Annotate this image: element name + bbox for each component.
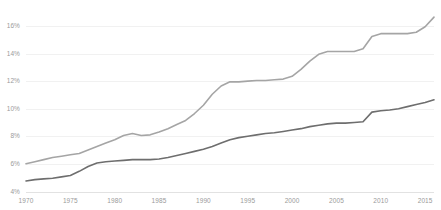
x-axis-tick-label: 2015 — [412, 197, 438, 204]
x-axis-tick-label: 1970 — [13, 197, 39, 204]
y-axis-tick-label: 10% — [0, 105, 20, 112]
x-axis-tick-label: 1985 — [146, 197, 172, 204]
series-lines — [26, 17, 434, 181]
y-axis-tick-label: 4% — [0, 188, 20, 195]
series-line-lower-series — [26, 100, 434, 181]
x-axis-tick-label: 2010 — [368, 197, 394, 204]
series-line-upper-series — [26, 17, 434, 164]
y-axis-tick-label: 16% — [0, 22, 20, 29]
x-axis-tick-label: 1980 — [102, 197, 128, 204]
plot-area — [0, 0, 441, 210]
x-axis-tick-label: 2000 — [279, 197, 305, 204]
y-axis-tick-label: 8% — [0, 132, 20, 139]
x-axis-tick-label: 1990 — [190, 197, 216, 204]
x-axis-tick-label: 1995 — [235, 197, 261, 204]
y-axis-tick-label: 6% — [0, 160, 20, 167]
y-axis-tick-label: 14% — [0, 50, 20, 57]
x-axis-tick-label: 1975 — [57, 197, 83, 204]
x-axis-tick-label: 2005 — [323, 197, 349, 204]
y-axis-tick-label: 12% — [0, 77, 20, 84]
line-chart: 4%6%8%10%12%14%16% 197019751980198519901… — [0, 0, 441, 210]
